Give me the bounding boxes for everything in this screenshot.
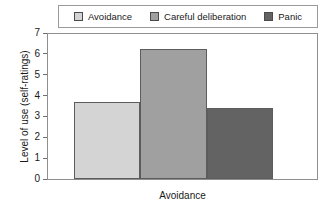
plot-area [47, 33, 318, 180]
y-tick-label: 7 [34, 27, 43, 39]
y-tick-5: 5 [34, 69, 47, 81]
legend-item-panic: Panic [264, 12, 302, 22]
y-tick-label: 1 [34, 152, 43, 164]
bars-container [48, 34, 317, 179]
legend-swatch-icon-panic [264, 12, 273, 21]
y-axis-title: Level of use (self-ratings) [19, 27, 30, 187]
y-tick-label: 2 [34, 131, 43, 143]
y-tick-2: 2 [34, 131, 47, 143]
bar-chart-figure: Avoidance Careful deliberation Panic Lev… [0, 0, 328, 212]
y-tick-label: 3 [34, 110, 43, 122]
bar-avoidance [74, 102, 141, 179]
bar-panic [207, 108, 274, 179]
legend-swatch-icon-careful-deliberation [150, 12, 159, 21]
y-tick-1: 1 [34, 152, 47, 164]
bar-careful-deliberation [140, 49, 207, 180]
y-tick-label: 6 [34, 48, 43, 60]
legend-label-avoidance: Avoidance [88, 12, 132, 22]
y-tick-3: 3 [34, 110, 47, 122]
chart-legend: Avoidance Careful deliberation Panic [58, 5, 318, 28]
y-axis: Level of use (self-ratings) 01234567 [0, 33, 47, 180]
legend-label-panic: Panic [278, 12, 302, 22]
y-tick-label: 4 [34, 90, 43, 102]
y-tick-6: 6 [34, 48, 47, 60]
legend-swatch-icon-avoidance [74, 12, 83, 21]
legend-label-careful-deliberation: Careful deliberation [164, 12, 246, 22]
y-tick-0: 0 [34, 173, 47, 185]
y-tick-7: 7 [34, 27, 47, 39]
y-tick-label: 5 [34, 69, 43, 81]
legend-item-avoidance: Avoidance [74, 12, 132, 22]
y-tick-4: 4 [34, 90, 47, 102]
x-axis-category-label: Avoidance [47, 190, 318, 202]
legend-item-careful-deliberation: Careful deliberation [150, 12, 246, 22]
y-tick-label: 0 [34, 173, 43, 185]
